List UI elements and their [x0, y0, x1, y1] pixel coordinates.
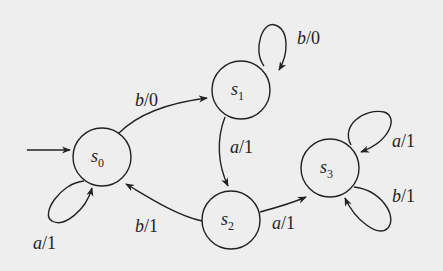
state-s1-label: s1: [231, 79, 244, 103]
state-s1: s1: [212, 61, 270, 119]
edge-label-s0-s1: b/0: [135, 90, 158, 110]
state-s3: s3: [301, 139, 359, 197]
state-s2: s2: [202, 191, 260, 249]
state-s0: s0: [73, 128, 131, 186]
edge-s0-s0-a: [48, 181, 92, 223]
edge-s0-s1-b: [119, 98, 207, 133]
edge-label-s2-s3: a/1: [272, 213, 295, 233]
edge-label-s3-s3-a: a/1: [392, 131, 415, 151]
edge-s2-s3-a: [260, 197, 306, 212]
edge-s1-s2-a: [219, 117, 228, 186]
edge-label-s3-s3-b: b/1: [392, 186, 415, 206]
edge-label-s1-s1: b/0: [297, 28, 320, 48]
state-s2-label: s2: [221, 209, 234, 233]
edge-label-s1-s2: a/1: [230, 137, 253, 157]
edge-s1-s1-b: [259, 24, 286, 70]
diagram-svg: s0 s1 s2 s3 a/1 b/0 b/0 a/1 b/1 a: [0, 0, 443, 271]
edge-label-s0-s0: a/1: [33, 233, 56, 253]
state-s0-label: s0: [91, 146, 104, 170]
edge-s3-s3-a: [348, 111, 391, 152]
state-diagram: s0 s1 s2 s3 a/1 b/0 b/0 a/1 b/1 a: [0, 0, 443, 271]
edge-s3-s3-b: [345, 187, 391, 231]
state-s3-label: s3: [320, 157, 333, 181]
edge-label-s2-s0: b/1: [135, 216, 158, 236]
